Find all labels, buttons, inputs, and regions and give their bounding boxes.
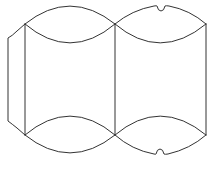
pillow-box-template xyxy=(0,0,218,170)
back-top-outer-curve-with-notch xyxy=(115,6,206,24)
front-top-fold-curve xyxy=(25,24,115,43)
front-top-outer-curve xyxy=(25,6,115,24)
die-line-drawing xyxy=(0,0,218,170)
front-bottom-outer-curve xyxy=(25,135,115,153)
back-top-fold-curve xyxy=(115,24,206,43)
back-bottom-fold-curve xyxy=(115,116,206,135)
back-bottom-outer-curve-with-notch xyxy=(115,135,206,154)
glue-flap-outline xyxy=(8,24,25,135)
front-bottom-fold-curve xyxy=(25,116,115,135)
